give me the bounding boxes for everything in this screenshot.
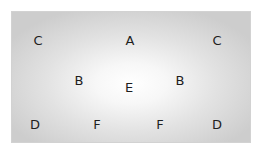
label-f-bottom-left: F xyxy=(93,118,100,131)
label-c-top-right: C xyxy=(212,34,221,47)
label-b-mid-left: B xyxy=(75,74,84,87)
label-d-bottom-right: D xyxy=(212,118,222,131)
label-b-mid-right: B xyxy=(176,74,185,87)
label-f-bottom-right: F xyxy=(156,118,163,131)
label-d-bottom-left: D xyxy=(30,118,40,131)
label-e-center: E xyxy=(125,81,133,94)
label-c-top-left: C xyxy=(33,34,42,47)
label-a-top-center: A xyxy=(126,34,135,47)
